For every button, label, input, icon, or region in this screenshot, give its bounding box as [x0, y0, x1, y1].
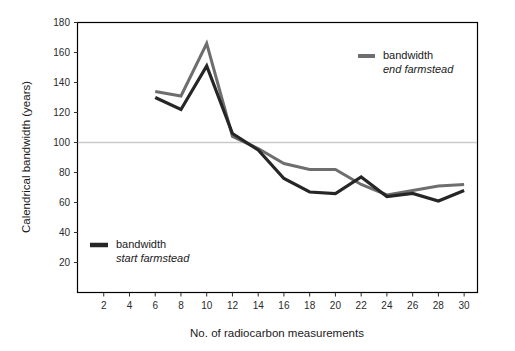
x-tick-label: 14	[253, 300, 265, 311]
x-axis: 24681012141618202224262830	[101, 293, 470, 311]
legend-end-farmstead-line2: end farmstead	[383, 63, 454, 75]
y-tick-label: 180	[53, 17, 70, 28]
line-chart: 20406080100120140160180 2468101214161820…	[0, 0, 515, 351]
x-tick-label: 28	[433, 300, 445, 311]
x-tick-label: 16	[278, 300, 290, 311]
y-axis-title: Calendrical bandwidth (years)	[20, 81, 32, 233]
legend-start-farmstead: bandwidth start farmstead	[90, 238, 190, 264]
x-tick-label: 12	[227, 300, 239, 311]
legend-end-farmstead-line1: bandwidth	[383, 49, 433, 61]
x-tick-label: 20	[330, 300, 342, 311]
y-tick-label: 160	[53, 47, 70, 58]
x-tick-label: 10	[201, 300, 213, 311]
x-tick-label: 30	[459, 300, 471, 311]
x-tick-label: 8	[178, 300, 184, 311]
y-tick-label: 80	[59, 167, 71, 178]
legend-start-farmstead-line1: bandwidth	[116, 238, 166, 250]
x-tick-label: 26	[407, 300, 419, 311]
x-tick-label: 2	[101, 300, 107, 311]
x-tick-label: 6	[152, 300, 158, 311]
chart-container: 20406080100120140160180 2468101214161820…	[0, 0, 515, 351]
y-tick-label: 40	[59, 227, 71, 238]
x-tick-label: 22	[356, 300, 368, 311]
x-tick-label: 4	[127, 300, 133, 311]
x-tick-label: 24	[381, 300, 393, 311]
y-tick-label: 140	[53, 77, 70, 88]
legend-end-farmstead: bandwidth end farmstead	[358, 49, 454, 75]
y-tick-label: 20	[59, 257, 71, 268]
series-line-bandwidth-start-farmstead	[155, 66, 464, 201]
y-tick-label: 100	[53, 137, 70, 148]
y-tick-label: 60	[59, 197, 71, 208]
x-axis-title: No. of radiocarbon measurements	[190, 327, 364, 339]
x-tick-label: 18	[304, 300, 316, 311]
y-axis: 20406080100120140160180	[53, 17, 78, 268]
y-tick-label: 120	[53, 107, 70, 118]
legend-start-farmstead-line2: start farmstead	[116, 252, 190, 264]
